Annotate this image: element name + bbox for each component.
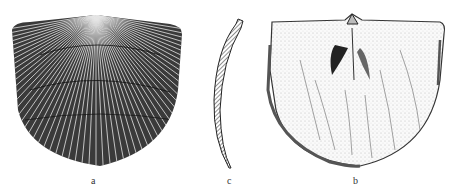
figure-b-label: b (353, 175, 358, 186)
plate-illustration: a c b (0, 0, 458, 192)
figure-c-section (214, 19, 243, 168)
figure-a-shell (0, 15, 294, 192)
figure-b-interior (268, 14, 445, 166)
figure-a-label: a (91, 175, 96, 186)
figure-c-label: c (227, 175, 232, 186)
